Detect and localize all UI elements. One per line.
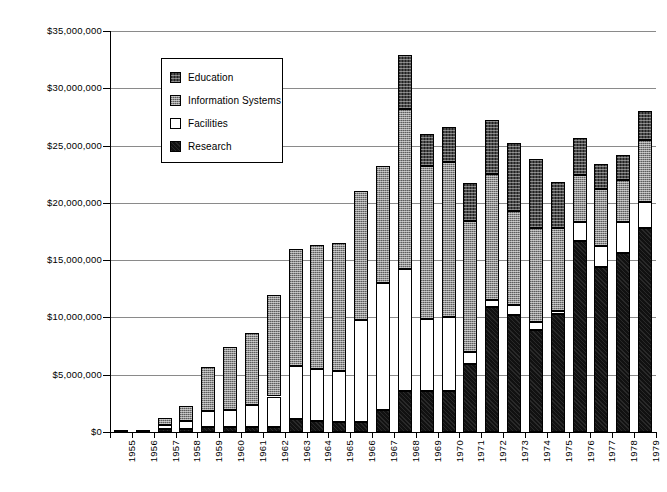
bar-segment-facilities bbox=[267, 397, 281, 428]
legend-label: Information Systems bbox=[188, 95, 281, 106]
x-axis-tick bbox=[285, 432, 286, 438]
bar-segment-education bbox=[551, 182, 565, 228]
x-axis-tick bbox=[656, 432, 657, 438]
x-axis-tick bbox=[634, 432, 635, 438]
bar-segment-research bbox=[573, 241, 587, 432]
bar-1963 bbox=[289, 249, 303, 432]
bar-segment-facilities bbox=[420, 319, 434, 391]
x-axis-label-1963: 1963 bbox=[301, 440, 315, 492]
legend-item-research: Research bbox=[170, 135, 282, 158]
y-axis-labels: $0$5,000,000$10,000,000$15,000,000$20,00… bbox=[0, 0, 102, 492]
bar-segment-information-systems bbox=[420, 166, 434, 318]
y-axis-tick bbox=[103, 317, 110, 318]
x-axis-tick bbox=[307, 432, 308, 438]
legend-label: Facilities bbox=[188, 118, 228, 129]
bar-1964 bbox=[310, 245, 324, 432]
x-axis-label-1969: 1969 bbox=[432, 440, 446, 492]
x-axis-label-1968: 1968 bbox=[410, 440, 424, 492]
bar-segment-information-systems bbox=[398, 109, 412, 269]
x-axis-label-1976: 1976 bbox=[585, 440, 599, 492]
x-axis-label-1973: 1973 bbox=[519, 440, 533, 492]
x-axis-label-1974: 1974 bbox=[541, 440, 555, 492]
x-axis-tick bbox=[394, 432, 395, 438]
bar-segment-education bbox=[398, 55, 412, 109]
bar-segment-education bbox=[616, 155, 630, 180]
bar-segment-facilities bbox=[616, 222, 630, 253]
bar-segment-information-systems bbox=[551, 228, 565, 310]
bar-segment-research bbox=[507, 315, 521, 432]
bar-segment-education bbox=[420, 134, 434, 166]
bar-segment-education bbox=[529, 159, 543, 228]
bar-segment-facilities bbox=[289, 366, 303, 420]
bar-segment-facilities bbox=[638, 202, 652, 228]
bar-segment-information-systems bbox=[201, 367, 215, 412]
x-axis-tick bbox=[416, 432, 417, 438]
x-axis-tick bbox=[612, 432, 613, 438]
bar-1965 bbox=[332, 243, 346, 432]
bar-1967 bbox=[376, 166, 390, 432]
x-axis-label-1956: 1956 bbox=[148, 440, 162, 492]
bar-segment-facilities bbox=[376, 283, 390, 410]
bar-segment-research bbox=[289, 419, 303, 432]
bar-segment-research bbox=[332, 422, 346, 432]
bar-segment-facilities bbox=[529, 322, 543, 330]
bar-segment-facilities bbox=[201, 411, 215, 427]
facilities-swatch bbox=[170, 118, 181, 129]
x-axis-label-1977: 1977 bbox=[606, 440, 620, 492]
bar-1979 bbox=[638, 111, 652, 432]
bar-segment-research bbox=[442, 391, 456, 432]
bar-segment-facilities bbox=[594, 246, 608, 267]
bar-segment-research bbox=[529, 330, 543, 432]
x-axis-label-1971: 1971 bbox=[475, 440, 489, 492]
research-swatch bbox=[170, 141, 181, 152]
bar-1961 bbox=[245, 333, 259, 432]
y-axis-tick bbox=[103, 375, 110, 376]
bar-segment-information-systems bbox=[638, 140, 652, 202]
y-axis-tick bbox=[103, 432, 110, 433]
bar-segment-facilities bbox=[398, 269, 412, 390]
bar-segment-education bbox=[573, 138, 587, 176]
bar-segment-facilities bbox=[463, 352, 477, 365]
bar-segment-education bbox=[638, 111, 652, 140]
x-axis-tick bbox=[547, 432, 548, 438]
bar-1960 bbox=[223, 347, 237, 432]
x-axis-tick bbox=[438, 432, 439, 438]
x-axis-tick bbox=[525, 432, 526, 438]
bar-segment-facilities bbox=[179, 421, 193, 429]
x-axis-tick bbox=[569, 432, 570, 438]
x-axis-tick bbox=[176, 432, 177, 438]
legend-item-information-systems: Information Systems bbox=[170, 89, 282, 112]
x-axis-tick bbox=[263, 432, 264, 438]
x-axis-label-1964: 1964 bbox=[322, 440, 336, 492]
y-axis-tick-label: $30,000,000 bbox=[47, 82, 102, 93]
x-axis-label-1961: 1961 bbox=[257, 440, 271, 492]
bar-segment-facilities bbox=[354, 320, 368, 422]
bar-segment-facilities bbox=[573, 222, 587, 240]
y-axis-tick bbox=[103, 88, 110, 89]
x-axis-tick bbox=[459, 432, 460, 438]
bar-segment-information-systems bbox=[616, 180, 630, 222]
bar-segment-information-systems bbox=[463, 221, 477, 352]
bar-segment-research bbox=[594, 267, 608, 432]
legend: EducationInformation SystemsFacilitiesRe… bbox=[161, 58, 283, 163]
x-axis-tick bbox=[219, 432, 220, 438]
education-swatch bbox=[170, 72, 181, 83]
y-axis-tick bbox=[103, 31, 110, 32]
y-axis-tick-label: $20,000,000 bbox=[47, 197, 102, 208]
x-axis-ticks bbox=[110, 432, 656, 438]
y-axis-tick bbox=[103, 146, 110, 147]
bar-segment-information-systems bbox=[529, 228, 543, 322]
x-axis-labels: 1955195619571958195919601961196219631964… bbox=[110, 440, 656, 492]
x-axis-tick bbox=[590, 432, 591, 438]
bar-segment-information-systems bbox=[442, 162, 456, 318]
x-axis-tick bbox=[481, 432, 482, 438]
bar-1969 bbox=[420, 134, 434, 432]
x-axis-label-1958: 1958 bbox=[191, 440, 205, 492]
bar-segment-education bbox=[594, 164, 608, 189]
y-axis-tick-label: $10,000,000 bbox=[47, 311, 102, 322]
x-axis-label-1966: 1966 bbox=[366, 440, 380, 492]
bar-segment-research bbox=[638, 228, 652, 432]
bar-1977 bbox=[594, 164, 608, 432]
bar-1958 bbox=[179, 406, 193, 432]
x-axis-tick bbox=[110, 432, 111, 438]
